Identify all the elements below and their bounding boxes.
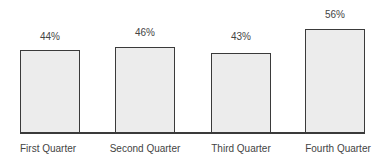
value-label-third-quarter: 43% [211, 31, 271, 42]
bar-fourth-quarter [305, 29, 365, 132]
bar-third-quarter [211, 53, 271, 132]
category-label-second-quarter: Second Quarter [97, 143, 193, 154]
bar-chart: 44% 46% 43% 56% First Quarter Second Qua… [0, 0, 386, 162]
category-label-third-quarter: Third Quarter [193, 143, 289, 154]
x-axis-baseline [20, 132, 365, 134]
bar-second-quarter [115, 47, 175, 132]
value-label-second-quarter: 46% [115, 27, 175, 38]
category-label-fourth-quarter: Fourth Quarter [290, 143, 386, 154]
bar-first-quarter [20, 50, 80, 132]
value-label-fourth-quarter: 56% [305, 9, 365, 20]
category-label-first-quarter: First Quarter [2, 143, 100, 154]
value-label-first-quarter: 44% [20, 31, 80, 42]
